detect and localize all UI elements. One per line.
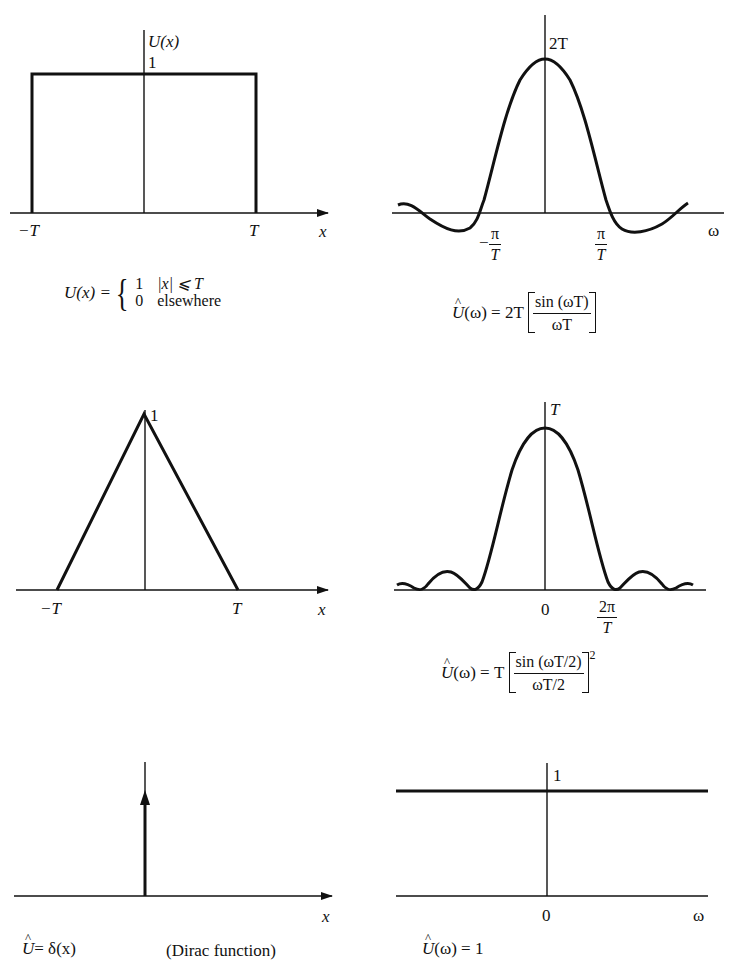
panel-dirac-plot <box>14 762 332 896</box>
x-axis-label: x <box>318 601 326 618</box>
peak-label: T <box>550 401 559 418</box>
formula-rhs: (ω) = 1 <box>434 939 483 959</box>
panel-triangle-plot <box>16 410 328 590</box>
dirac-note: (Dirac function) <box>166 942 276 959</box>
bracket: sin (ωT) ωT <box>528 292 596 333</box>
formula-constant: U (ω) = 1 <box>422 939 483 959</box>
tick-label-pi-over-t: π T <box>595 226 607 263</box>
x-axis-label: x <box>319 223 327 240</box>
formula-lhs: U(x) = <box>64 283 111 303</box>
tick-label-neg-pi-over-t: π T <box>489 226 501 263</box>
tick-sign: − <box>479 234 489 251</box>
formula-sinc: U (ω) = 2T sin (ωT) ωT <box>452 292 596 333</box>
brace-icon: { <box>116 278 129 308</box>
figure-canvas <box>0 0 734 979</box>
formula-rhs: = δ(x) <box>34 939 76 959</box>
formula-rect: U(x) = { 1|x| ⩽ T 0elsewhere <box>64 276 221 310</box>
formula-sinc-squared: U (ω) = T sin (ωT/2) ωT/2 2 <box>441 652 596 693</box>
triangle-curve <box>57 414 238 590</box>
formula-cases: 1|x| ⩽ T 0elsewhere <box>135 276 221 310</box>
formula-lhs: (ω) = 2T <box>464 303 523 323</box>
peak-label: 2T <box>549 35 568 52</box>
tick-label-zero: 0 <box>541 601 550 618</box>
bracket: sin (ωT/2) ωT/2 <box>509 652 589 693</box>
peak-label: 1 <box>148 54 157 71</box>
tick-label-2pi-over-t: 2π T <box>597 599 617 636</box>
x-axis-label: ω <box>708 222 719 239</box>
panel-constant-plot <box>396 763 708 896</box>
u-hat-symbol: U <box>422 939 434 959</box>
u-hat-symbol: U <box>22 939 34 959</box>
u-hat-symbol: U <box>452 303 464 323</box>
tick-label-t: T <box>249 222 258 239</box>
peak-label: 1 <box>553 767 562 784</box>
formula-dirac: U = δ(x) <box>22 939 76 959</box>
x-axis-label: x <box>322 908 330 925</box>
panel-sinc-squared-plot <box>394 402 706 590</box>
tick-label-t: T <box>232 600 241 617</box>
x-axis-label: ω <box>693 907 704 924</box>
tick-label-neg-t: −T <box>18 222 39 239</box>
impulse-arrowhead <box>140 790 150 805</box>
peak-label: 1 <box>150 407 159 424</box>
y-axis-label: U(x) <box>148 33 179 50</box>
formula-lhs: (ω) = T <box>453 663 504 683</box>
tick-label-zero: 0 <box>542 907 551 924</box>
sinc-curve <box>398 59 688 232</box>
u-hat-symbol: U <box>441 663 453 683</box>
panel-rect-plot <box>10 30 328 213</box>
tick-label-neg-t: −T <box>40 600 61 617</box>
exponent: 2 <box>590 648 596 663</box>
